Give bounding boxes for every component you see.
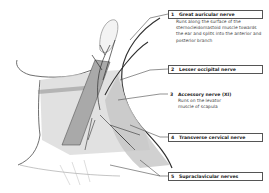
label-great-auricular-nerve: 1Great auricular nerve bbox=[168, 10, 263, 19]
label-accessory-nerve: 3Accessory nerve (XI) bbox=[170, 91, 231, 98]
label-title: Supraclavicular nerves bbox=[179, 174, 238, 179]
label-number: 3 bbox=[170, 91, 178, 98]
label-description-great-auricular: Runs along the surface of the sternoclei… bbox=[176, 19, 264, 44]
label-supraclavicular-nerves: 5Supraclavicular nerves bbox=[168, 172, 263, 181]
label-number: 5 bbox=[171, 173, 179, 180]
label-lesser-occipital-nerve: 2Lesser occipital nerve bbox=[168, 65, 263, 74]
label-number: 4 bbox=[171, 134, 179, 141]
label-description-accessory: Runs on the levator muscle of scapula bbox=[178, 98, 238, 110]
label-title: Transverse cervical nerve bbox=[179, 135, 245, 140]
label-title: Lesser occipital nerve bbox=[179, 67, 236, 72]
label-transverse-cervical-nerve: 4Transverse cervical nerve bbox=[168, 133, 263, 142]
label-number: 2 bbox=[171, 66, 179, 73]
label-title: Accessory nerve (XI) bbox=[178, 92, 231, 97]
anatomy-figure: 1Great auricular nerve Runs along the su… bbox=[0, 0, 269, 193]
label-number: 1 bbox=[171, 11, 179, 18]
label-title: Great auricular nerve bbox=[179, 12, 235, 17]
